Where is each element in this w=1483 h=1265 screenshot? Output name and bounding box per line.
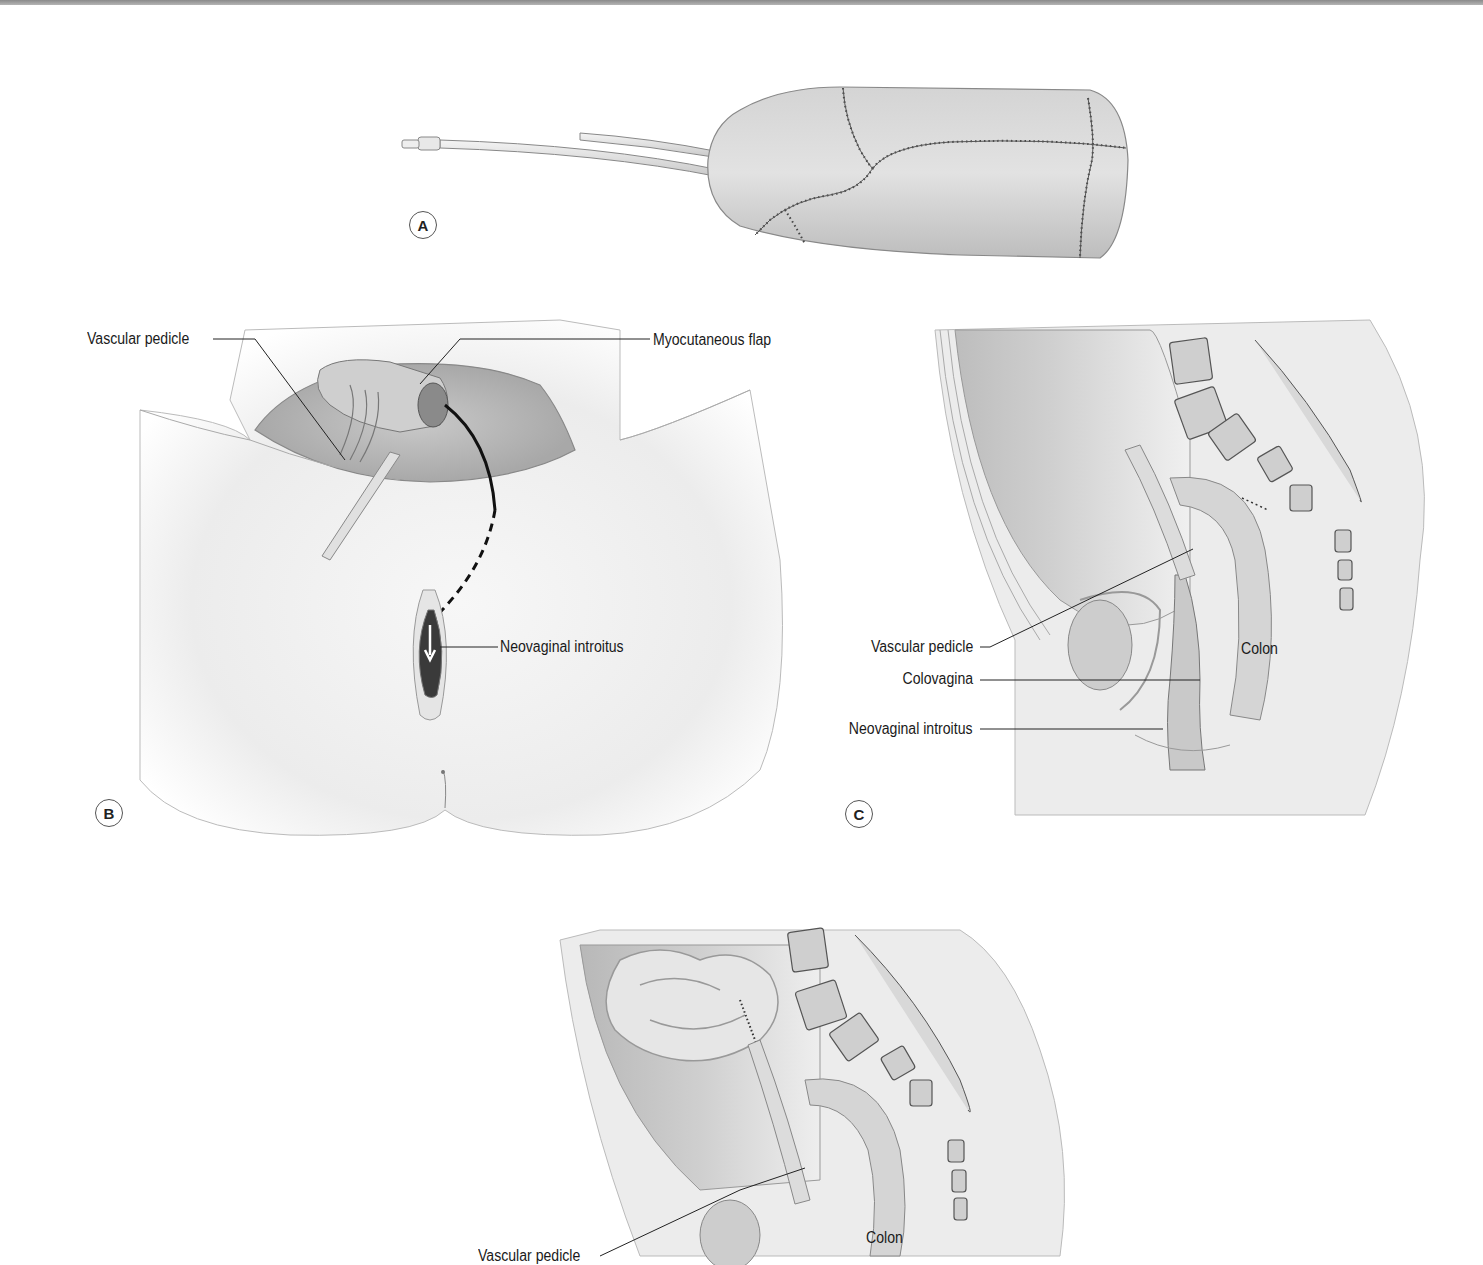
label-colon-d: Colon	[866, 1229, 903, 1247]
label-vascular-pedicle-d: Vascular pedicle	[478, 1247, 580, 1265]
